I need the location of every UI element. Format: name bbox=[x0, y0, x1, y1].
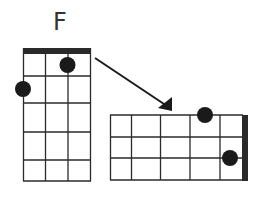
chord-diagrams bbox=[0, 0, 259, 198]
finger-dot bbox=[60, 57, 76, 73]
vertical-nut bbox=[23, 48, 91, 54]
finger-dot bbox=[222, 150, 238, 166]
vertical-fretboard bbox=[23, 48, 91, 181]
finger-dot bbox=[197, 107, 213, 123]
arrow-icon bbox=[95, 58, 172, 111]
horizontal-fretboard bbox=[110, 115, 248, 181]
horizontal-nut bbox=[242, 115, 248, 181]
finger-dot bbox=[15, 81, 31, 97]
